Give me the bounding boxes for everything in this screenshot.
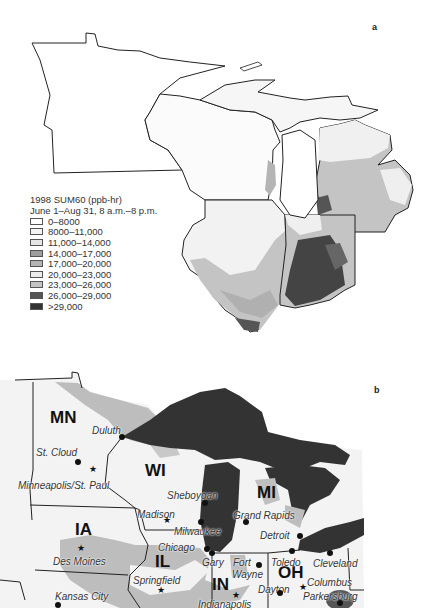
legend-item-label: 26,000–29,000 <box>48 290 111 301</box>
legend: 1998 SUM60 (ppb-hr) June 1–Aug 31, 8 a.m… <box>30 194 157 311</box>
city-label: Kansas City <box>55 591 108 602</box>
legend-swatch <box>30 218 43 225</box>
capital-star-icon: ★ <box>89 465 97 474</box>
legend-subtitle: June 1–Aug 31, 8 a.m.–8 p.m. <box>30 205 157 216</box>
legend-item-label: 14,000–17,000 <box>48 248 111 259</box>
city-label: Duluth <box>92 425 121 436</box>
city-dot-icon <box>327 550 333 556</box>
legend-swatch <box>30 260 43 267</box>
legend-item: 0–8000 <box>30 216 157 227</box>
legend-item-label: >29,000 <box>48 301 83 312</box>
city-label: Grand Rapids <box>233 510 295 521</box>
capital-star-icon: ★ <box>77 544 85 553</box>
capital-star-icon: ★ <box>163 516 171 525</box>
city-label: Cleveland <box>313 558 357 569</box>
state-label: WI <box>145 461 166 481</box>
legend-items: 0–80008000–11,00011,000–14,00014,000–17,… <box>30 216 157 311</box>
state-label: MI <box>257 483 276 503</box>
city-dot-icon <box>256 562 262 568</box>
city-dot-icon <box>198 519 204 525</box>
legend-swatch <box>30 303 43 310</box>
city-dot-icon <box>119 434 125 440</box>
city-label: Minneapolis/St. Paul <box>18 480 109 491</box>
legend-swatch <box>30 228 43 235</box>
capital-star-icon: ★ <box>232 591 240 600</box>
state-label: IA <box>75 520 92 540</box>
city-dot-icon <box>55 602 61 608</box>
city-dot-icon <box>243 519 249 525</box>
city-dot-icon <box>297 533 303 539</box>
city-label: Gary <box>202 557 224 568</box>
city-label: Detroit <box>260 530 289 541</box>
legend-item-label: 11,000–14,000 <box>48 237 111 248</box>
state-label: IN <box>212 575 229 595</box>
legend-swatch <box>30 281 43 288</box>
city-label: Wayne <box>232 569 263 580</box>
city-dot-icon <box>277 590 283 596</box>
city-label: Indianapolis <box>198 599 251 610</box>
legend-item: 20,000–23,000 <box>30 269 157 280</box>
city-dot-icon <box>289 548 295 554</box>
state-label: IL <box>155 552 170 572</box>
city-label: Milwaukee <box>174 526 221 537</box>
legend-item-label: 20,000–23,000 <box>48 269 111 280</box>
legend-swatch <box>30 292 43 299</box>
legend-item: 23,000–26,000 <box>30 280 157 291</box>
legend-item-label: 8000–11,000 <box>48 226 103 237</box>
city-label: Chicago <box>158 542 195 553</box>
legend-item: 26,000–29,000 <box>30 290 157 301</box>
city-dot-icon <box>202 500 208 506</box>
city-label: Toledo <box>271 557 301 568</box>
legend-item-label: 17,000–20,000 <box>48 258 111 269</box>
state-label: MN <box>50 408 76 428</box>
legend-swatch <box>30 271 43 278</box>
legend-item: 11,000–14,000 <box>30 237 157 248</box>
city-label: Des Moines <box>53 556 106 567</box>
legend-title: 1998 SUM60 (ppb-hr) <box>30 194 157 205</box>
city-label: St. Cloud <box>36 447 77 458</box>
legend-swatch <box>30 239 43 246</box>
legend-item-label: 0–8000 <box>48 216 80 227</box>
legend-item: 8000–11,000 <box>30 227 157 238</box>
legend-swatch <box>30 250 43 257</box>
city-label: Parkersburg <box>303 591 357 602</box>
legend-item-label: 23,000–26,000 <box>48 279 111 290</box>
city-label: Columbus <box>307 577 352 588</box>
city-label: Sheboygan <box>167 490 218 501</box>
capital-star-icon: ★ <box>157 586 165 595</box>
city-dot-icon <box>209 550 215 556</box>
legend-item: >29,000 <box>30 301 157 312</box>
legend-item: 14,000–17,000 <box>30 248 157 259</box>
city-label: Fort <box>233 557 251 568</box>
city-label: Dayton <box>258 584 290 595</box>
city-dot-icon <box>337 600 343 606</box>
city-dot-icon <box>75 459 81 465</box>
legend-item: 17,000–20,000 <box>30 258 157 269</box>
